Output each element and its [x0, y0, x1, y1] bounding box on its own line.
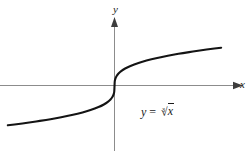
cube-root-function-graph: [0, 0, 251, 156]
x-axis-label: x: [240, 79, 245, 90]
equation-lhs: y: [141, 105, 146, 119]
radical-sign-icon: √: [161, 105, 168, 119]
y-axis-label: y: [113, 4, 118, 15]
equation-operator: =: [149, 105, 156, 119]
cube-root-radical: 3√x: [159, 106, 174, 118]
radicand: x: [168, 103, 174, 118]
figure-background: [0, 0, 251, 156]
equation-annotation: y=3√x: [141, 106, 174, 118]
